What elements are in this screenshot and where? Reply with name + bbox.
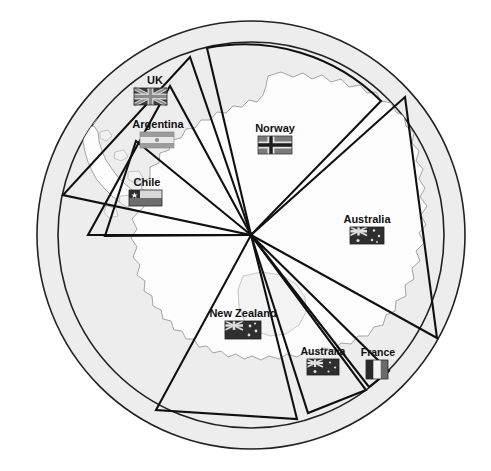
claim-label-australia-east[interactable]: Australia (343, 213, 391, 244)
antarctic-claims-map: UK Argentina Chile (0, 0, 491, 471)
claim-label-australia-east-text: Australia (343, 213, 391, 225)
new-zealand-flag-icon (225, 321, 261, 339)
claim-label-norway-text: Norway (255, 122, 296, 134)
claim-label-australia-west-text: Australia (301, 345, 346, 357)
australia-flag-icon-east (350, 227, 384, 244)
australia-flag-icon-west (307, 359, 339, 375)
norway-flag-icon (258, 136, 292, 154)
claim-label-norway[interactable]: Norway (255, 122, 296, 154)
claim-label-france-text: France (361, 346, 396, 358)
argentina-flag-icon (140, 132, 174, 148)
france-flag-icon (366, 360, 388, 379)
antarctica-map-svg: UK Argentina Chile (0, 0, 491, 471)
claim-label-australia-west[interactable]: Australia (301, 345, 346, 375)
claim-label-chile[interactable]: Chile (129, 176, 162, 206)
union-jack-icon (134, 88, 167, 105)
chile-flag-icon (129, 190, 162, 206)
claim-label-new-zealand-text: New Zealand (209, 307, 276, 319)
claim-label-chile-text: Chile (134, 176, 161, 188)
claim-label-argentina-text: Argentina (132, 118, 184, 130)
claim-label-uk-text: UK (147, 74, 163, 86)
